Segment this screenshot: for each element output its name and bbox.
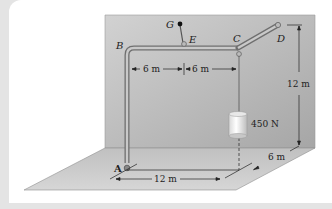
dim-label-BE: 6 m <box>143 64 161 74</box>
label-C: C <box>233 33 241 44</box>
label-B: B <box>115 40 123 51</box>
dim-label-EC: 6 m <box>192 64 210 74</box>
label-A: A <box>113 163 122 174</box>
load-label: 450 N <box>251 119 279 129</box>
joint-D <box>275 22 280 27</box>
dim-label-height: 12 m <box>287 79 310 89</box>
dim-label-floor: 12 m <box>154 174 177 184</box>
statics-diagram: G E B C D A 6 m 6 m 12 m 6 m 12 m 450 N <box>0 0 332 209</box>
label-D: D <box>276 33 285 44</box>
label-E: E <box>188 34 197 45</box>
label-G: G <box>166 19 174 30</box>
joint-C <box>237 52 242 57</box>
weight-cylinder <box>229 112 247 139</box>
dim-label-depth: 6 m <box>268 152 286 162</box>
joint-E <box>182 42 187 47</box>
point-G-dot <box>178 22 183 27</box>
